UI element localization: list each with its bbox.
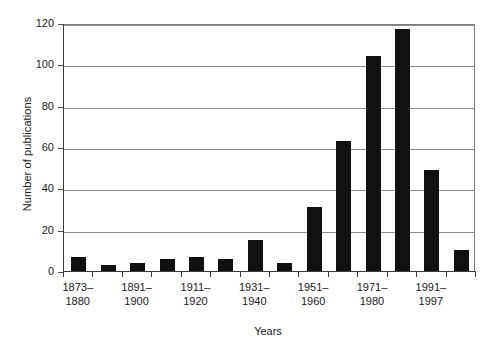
x-axis-tick-label-line1: 1951– <box>281 280 345 294</box>
y-axis-tick-label: 120 <box>28 18 54 29</box>
x-axis-tick-label-line2: 1920 <box>163 294 227 308</box>
x-axis-tick-label: 1931–1940 <box>222 280 286 308</box>
y-axis-tick-label: 0 <box>28 266 54 277</box>
x-axis-tick-mark <box>357 271 358 277</box>
x-axis-tick-labels: 1873–18801891–19001911–19201931–19401951… <box>63 280 475 314</box>
bar <box>189 257 204 271</box>
x-axis-tick-mark <box>122 271 123 277</box>
bar <box>218 259 233 271</box>
x-axis-tick-label-line1: 1991– <box>399 280 463 294</box>
x-axis-tick-label: 1891–1900 <box>105 280 169 308</box>
x-axis-tick-mark <box>298 271 299 277</box>
bar <box>71 257 86 271</box>
x-axis-tick-label-line2: 1880 <box>46 294 110 308</box>
bar <box>160 259 175 271</box>
x-axis-tick-mark <box>92 271 93 277</box>
x-axis-tick-mark <box>63 271 64 277</box>
bar-series <box>64 25 474 271</box>
bar <box>130 263 145 271</box>
y-axis-tick-label: 60 <box>28 142 54 153</box>
x-axis-title-text: Years <box>208 325 282 337</box>
x-axis-tick-mark <box>269 271 270 277</box>
x-axis-title: Years <box>0 325 490 337</box>
x-axis-tick-label-line2: 1980 <box>340 294 404 308</box>
x-axis-tick-label-line1: 1911– <box>163 280 227 294</box>
x-axis-tick-label: 1991–1997 <box>399 280 463 308</box>
x-axis-tick-label: 1873–1880 <box>46 280 110 308</box>
x-axis-tick-label-line2: 1940 <box>222 294 286 308</box>
bar <box>277 263 292 271</box>
y-axis-tick-label: 20 <box>28 225 54 236</box>
x-axis-tick-mark <box>240 271 241 277</box>
x-axis-tick-label: 1911–1920 <box>163 280 227 308</box>
x-axis-tick-mark <box>446 271 447 277</box>
bar <box>454 250 469 271</box>
bar <box>366 56 381 271</box>
y-axis-tick-label: 40 <box>28 183 54 194</box>
x-axis-tick-label-line1: 1971– <box>340 280 404 294</box>
x-axis-tick-label: 1951–1960 <box>281 280 345 308</box>
bar <box>395 29 410 271</box>
x-axis-tick-mark <box>416 271 417 277</box>
x-axis-tick-label-line1: 1873– <box>46 280 110 294</box>
x-axis-tick-mark <box>181 271 182 277</box>
x-axis-tick-label-line2: 1960 <box>281 294 345 308</box>
x-axis-tick-mark <box>210 271 211 277</box>
bar <box>336 141 351 271</box>
plot-area <box>63 24 475 272</box>
x-axis-tick-mark <box>387 271 388 277</box>
x-axis-tick-label-line2: 1900 <box>105 294 169 308</box>
x-axis-tick-mark <box>328 271 329 277</box>
x-axis-tick-label-line2: 1997 <box>399 294 463 308</box>
y-axis-tick-label: 80 <box>28 101 54 112</box>
bar <box>424 170 439 271</box>
x-axis-tick-label-line1: 1931– <box>222 280 286 294</box>
bar-chart-figure: Number of publications 020406080100120 1… <box>0 0 490 352</box>
x-axis-tick-mark <box>475 271 476 277</box>
x-axis-tick-marks <box>63 271 475 278</box>
bar <box>248 240 263 271</box>
y-axis-tick-label: 100 <box>28 59 54 70</box>
x-axis-tick-label: 1971–1980 <box>340 280 404 308</box>
bar <box>307 207 322 271</box>
x-axis-tick-mark <box>151 271 152 277</box>
x-axis-tick-label-line1: 1891– <box>105 280 169 294</box>
